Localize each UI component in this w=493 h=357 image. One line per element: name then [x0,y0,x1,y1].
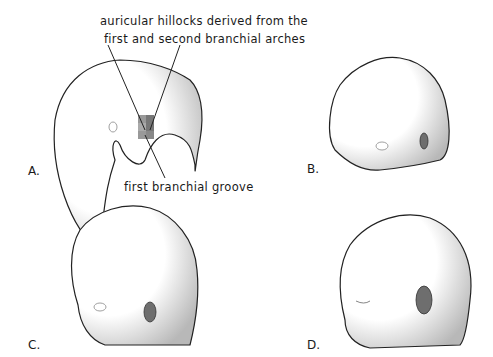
panel-b-head [330,57,450,170]
head-outline [340,215,471,348]
label-auricular-hillocks-line1: auricular hillocks derived from the [100,14,308,28]
panel-letter-d: D. [307,338,320,352]
ear-icon [416,286,432,314]
eye-icon [109,122,117,132]
eye-icon [94,303,106,311]
label-auricular-hillocks-line2: first and second branchial arches [104,32,305,46]
panel-letter-b: B. [307,162,319,176]
ear-icon [420,133,428,149]
panel-c-head [72,206,198,345]
head-outline [72,206,198,345]
panel-d-head [340,215,471,348]
diagram-canvas [0,0,493,357]
ear-icon [144,302,156,322]
panel-letter-a: A. [28,164,40,178]
panel-letter-c: C. [28,338,40,352]
label-first-branchial-groove: first branchial groove [124,180,254,194]
head-outline [330,57,450,170]
eye-icon [376,142,388,150]
